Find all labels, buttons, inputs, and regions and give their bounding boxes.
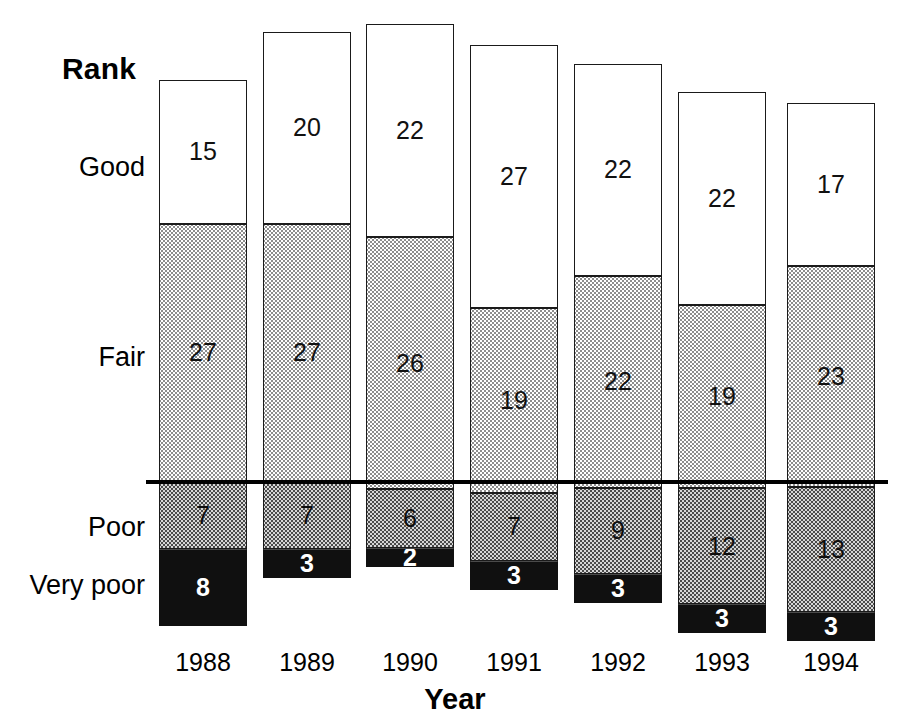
segment-value: 27: [189, 340, 217, 365]
year-label-1992: 1992: [574, 648, 662, 677]
year-label-1989: 1989: [263, 648, 351, 677]
segment-poor-1988: 7: [159, 482, 247, 549]
segment-good-1993: 22: [678, 92, 766, 305]
segment-value: 7: [507, 514, 521, 539]
segment-value: 15: [189, 139, 217, 164]
reference-line: [146, 480, 888, 484]
segment-good-1992: 22: [574, 64, 662, 276]
segment-poor-1989: 7: [263, 482, 351, 549]
segment-value: 19: [500, 388, 528, 413]
segment-fair-1993: 19: [678, 305, 766, 489]
segment-good-1994: 17: [787, 103, 875, 266]
segment-good-1989: 20: [263, 32, 351, 224]
segment-fair-1992: 22: [574, 276, 662, 488]
segment-value: 7: [300, 503, 314, 528]
year-label-1993: 1993: [678, 648, 766, 677]
segment-value: 8: [196, 575, 210, 600]
segment-value: 13: [817, 537, 845, 562]
segment-value: 17: [817, 172, 845, 197]
segment-very-poor-1988: 8: [159, 549, 247, 626]
segment-good-1988: 15: [159, 80, 247, 224]
segment-very-poor-1989: 3: [263, 549, 351, 578]
segment-value: 23: [817, 364, 845, 389]
segment-poor-1991: 7: [470, 493, 558, 561]
segment-value: 6: [403, 506, 417, 531]
bar-1993: 2219123: [678, 92, 766, 633]
segment-fair-1990: 26: [366, 237, 454, 489]
segment-value: 3: [824, 614, 838, 639]
segment-value: 9: [611, 518, 625, 543]
rank-axis-title: Rank: [62, 52, 136, 86]
segment-value: 22: [708, 186, 736, 211]
rank-label-good: Good: [79, 152, 145, 183]
segment-fair-1991: 19: [470, 308, 558, 493]
year-label-1990: 1990: [366, 648, 454, 677]
bar-1990: 222662: [366, 24, 454, 567]
stacked-bar-chart: Rank GoodFairPoorVery poor 1527782027732…: [0, 0, 910, 725]
segment-good-1991: 27: [470, 45, 558, 308]
segment-very-poor-1992: 3: [574, 574, 662, 603]
segment-fair-1989: 27: [263, 224, 351, 483]
rank-label-fair: Fair: [99, 342, 146, 373]
year-label-1994: 1994: [787, 648, 875, 677]
segment-value: 7: [196, 503, 210, 528]
segment-value: 20: [293, 115, 321, 140]
segment-value: 27: [500, 164, 528, 189]
segment-very-poor-1993: 3: [678, 604, 766, 633]
segment-poor-1992: 9: [574, 488, 662, 575]
segment-value: 3: [300, 551, 314, 576]
rank-label-very-poor: Very poor: [29, 570, 145, 601]
segment-very-poor-1990: 2: [366, 548, 454, 567]
segment-poor-1994: 13: [787, 487, 875, 612]
bar-1994: 1723133: [787, 103, 875, 641]
bar-1991: 271973: [470, 45, 558, 590]
segment-value: 12: [708, 534, 736, 559]
segment-very-poor-1991: 3: [470, 561, 558, 590]
year-label-1991: 1991: [470, 648, 558, 677]
segment-value: 3: [715, 606, 729, 631]
segment-value: 27: [293, 340, 321, 365]
year-axis-title: Year: [0, 683, 910, 716]
segment-fair-1994: 23: [787, 266, 875, 487]
bar-1989: 202773: [263, 32, 351, 578]
segment-fair-1988: 27: [159, 224, 247, 483]
bar-1988: 152778: [159, 80, 247, 626]
year-label-1988: 1988: [159, 648, 247, 677]
segment-poor-1993: 12: [678, 488, 766, 604]
segment-value: 2: [403, 548, 417, 567]
bar-1992: 222293: [574, 64, 662, 603]
segment-value: 22: [604, 369, 632, 394]
segment-very-poor-1994: 3: [787, 612, 875, 641]
segment-good-1990: 22: [366, 24, 454, 237]
rank-label-poor: Poor: [88, 512, 145, 543]
segment-value: 3: [507, 563, 521, 588]
segment-value: 22: [604, 157, 632, 182]
segment-value: 3: [611, 576, 625, 601]
segment-poor-1990: 6: [366, 489, 454, 547]
segment-value: 26: [396, 351, 424, 376]
segment-value: 19: [708, 384, 736, 409]
segment-value: 22: [396, 118, 424, 143]
